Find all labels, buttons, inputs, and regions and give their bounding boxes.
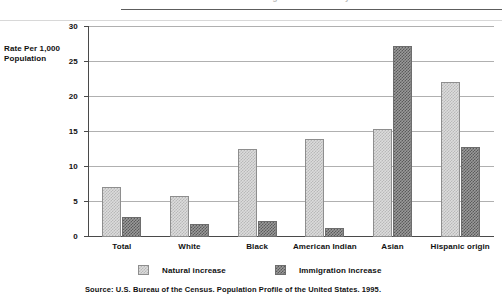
y-tick-mark — [84, 96, 88, 97]
bar-immigration-increase — [393, 46, 412, 237]
bar-natural-increase — [305, 139, 324, 237]
title-divider-rule-secondary — [0, 20, 502, 21]
legend-label: Natural increase — [162, 266, 226, 275]
gridline — [89, 131, 494, 132]
y-tick-mark — [84, 61, 88, 62]
x-category-label: Hispanic origin — [400, 242, 502, 251]
bar-natural-increase — [102, 187, 121, 237]
source-note: Source: U.S. Bureau of the Census. Popul… — [85, 285, 381, 294]
gridline — [89, 166, 494, 167]
bar-immigration-increase — [190, 224, 209, 237]
y-tick-mark — [84, 166, 88, 167]
legend-swatch-natural-increase — [138, 265, 149, 275]
chart-legend: Natural increaseImmigration increase — [0, 264, 502, 278]
title-divider-rule — [121, 9, 502, 10]
gridline — [89, 26, 494, 27]
bar-immigration-increase — [325, 228, 344, 237]
y-tick-label: 25 — [52, 57, 78, 66]
bar-natural-increase — [441, 82, 460, 237]
legend-label: Immigration increase — [299, 266, 381, 275]
y-tick-label: 0 — [52, 232, 78, 241]
y-tick-label: 20 — [52, 92, 78, 101]
y-tick-mark — [84, 201, 88, 202]
x-axis-line — [88, 236, 494, 237]
y-tick-mark — [84, 131, 88, 132]
gridline — [89, 96, 494, 97]
y-tick-label: 5 — [52, 197, 78, 206]
legend-swatch-immigration-increase — [275, 265, 286, 275]
y-tick-label: 30 — [52, 22, 78, 31]
y-tick-label: 10 — [52, 162, 78, 171]
y-tick-mark — [84, 236, 88, 237]
clipped-title-text: Natural Increase and Immigration Increas… — [168, 0, 372, 2]
bar-immigration-increase — [461, 147, 480, 237]
bar-natural-increase — [238, 149, 257, 237]
gridline — [89, 61, 494, 62]
gridline — [89, 201, 494, 202]
bar-immigration-increase — [258, 221, 277, 237]
y-tick-label: 15 — [52, 127, 78, 136]
bar-immigration-increase — [122, 217, 141, 237]
bar-natural-increase — [170, 196, 189, 237]
plot-area — [88, 26, 494, 237]
y-tick-mark — [84, 26, 88, 27]
bar-natural-increase — [373, 129, 392, 237]
